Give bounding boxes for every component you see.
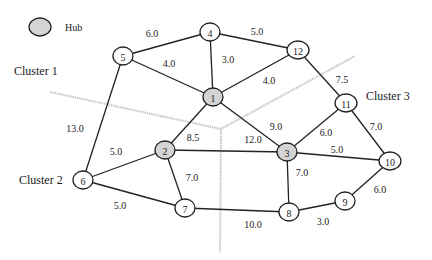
node-label: 8 bbox=[287, 208, 292, 219]
edge-4-1 bbox=[210, 32, 213, 97]
cluster-divider-line bbox=[220, 129, 221, 252]
node-10: 10 bbox=[379, 152, 401, 170]
edge-weight-label: 7.0 bbox=[186, 172, 199, 183]
node-label: 4 bbox=[208, 28, 213, 39]
edge-weight-label: 6.0 bbox=[320, 127, 333, 138]
edge-weight-label: 7.0 bbox=[370, 121, 383, 132]
edge-weight-label: 6.0 bbox=[374, 184, 387, 195]
edge-weight-label: 3.0 bbox=[222, 54, 235, 65]
edge-weight-label: 12.0 bbox=[244, 134, 262, 145]
edge-weight-label: 7.0 bbox=[296, 167, 309, 178]
node-9: 9 bbox=[335, 192, 355, 210]
edge-weight-label: 5.0 bbox=[114, 200, 127, 211]
edge-weight-label: 13.0 bbox=[66, 123, 84, 134]
legend: Hub bbox=[29, 18, 82, 36]
edge-5-6 bbox=[83, 56, 123, 180]
edge-weight-label: 7.5 bbox=[336, 74, 349, 85]
edge-2-3 bbox=[165, 150, 287, 152]
node-3: 3 bbox=[277, 143, 297, 161]
node-label: 5 bbox=[121, 52, 126, 63]
cluster-label: Cluster 2 bbox=[19, 173, 63, 187]
edge-6-7 bbox=[83, 180, 185, 208]
hub-legend-label: Hub bbox=[65, 22, 82, 33]
node-label: 3 bbox=[285, 148, 290, 159]
node-8: 8 bbox=[279, 203, 299, 221]
node-label: 6 bbox=[81, 176, 86, 187]
edge-7-8 bbox=[185, 208, 289, 212]
node-12: 12 bbox=[287, 41, 309, 59]
edge-weight-label: 8.5 bbox=[187, 132, 200, 143]
edge-weight-label: 4.0 bbox=[263, 75, 276, 86]
edge-weight-label: 4.0 bbox=[163, 58, 176, 69]
node-label: 7 bbox=[183, 204, 188, 215]
node-label: 1 bbox=[211, 93, 216, 104]
node-4: 4 bbox=[200, 23, 220, 41]
node-1: 1 bbox=[203, 88, 223, 106]
node-11: 11 bbox=[335, 94, 357, 112]
edge-weight-label: 6.0 bbox=[146, 28, 159, 39]
hub-legend-icon bbox=[29, 18, 51, 36]
network-diagram: 6.05.04.03.04.07.513.08.59.012.06.07.05.… bbox=[0, 0, 432, 260]
node-7: 7 bbox=[175, 199, 195, 217]
cluster-label: Cluster 1 bbox=[14, 64, 58, 78]
node-label: 10 bbox=[385, 157, 395, 168]
edge-weight-label: 3.0 bbox=[317, 216, 330, 227]
edge-weight-label: 5.0 bbox=[110, 146, 123, 157]
edge-weight-label: 9.0 bbox=[270, 121, 283, 132]
edge-weight-label: 10.0 bbox=[244, 219, 262, 230]
node-6: 6 bbox=[73, 171, 93, 189]
edge-weight-label: 5.0 bbox=[251, 26, 264, 37]
edge-6-2 bbox=[83, 150, 165, 180]
node-label: 2 bbox=[163, 146, 168, 157]
cluster-label: Cluster 3 bbox=[366, 89, 410, 103]
node-label: 9 bbox=[343, 197, 348, 208]
node-label: 12 bbox=[293, 46, 303, 57]
edge-11-10 bbox=[346, 103, 390, 161]
edge-weight-label: 5.0 bbox=[331, 144, 344, 155]
edge-5-4 bbox=[123, 32, 210, 56]
node-2: 2 bbox=[155, 141, 175, 159]
node-label: 11 bbox=[341, 99, 351, 110]
node-5: 5 bbox=[113, 47, 133, 65]
